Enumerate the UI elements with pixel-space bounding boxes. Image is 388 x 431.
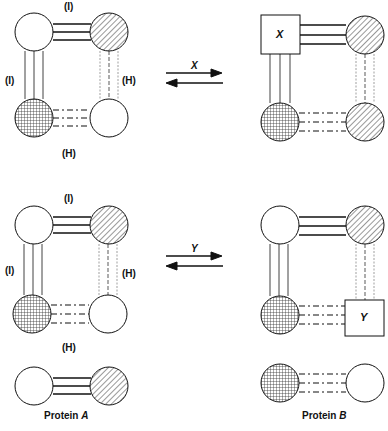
bond-label-left: (I) — [5, 265, 14, 276]
bond-label-left: (I) — [5, 75, 14, 86]
protein-diagram: (I) (I) (H) (H) (I) (I) (H) (H) X Y X Y … — [0, 0, 388, 431]
bottom-left-complex — [13, 206, 128, 333]
caption-protein-a: Protein A — [44, 410, 88, 421]
caption-protein-b: Protein B — [302, 410, 346, 421]
caption-prefix: Protein — [44, 410, 81, 421]
caption-letter: A — [81, 410, 88, 421]
protein-b — [261, 364, 384, 402]
bond-label-right: (H) — [122, 75, 136, 86]
top-left-complex — [15, 13, 128, 137]
equilibrium-arrows-x — [166, 69, 223, 87]
bond-label-top: (I) — [64, 193, 73, 204]
caption-letter: B — [339, 410, 346, 421]
bond-label-top: (I) — [64, 1, 73, 12]
protein-a — [15, 367, 128, 405]
bond-label-right: (H) — [122, 268, 136, 279]
arrow-label-x: X — [191, 60, 198, 71]
bond-label-bottom: (H) — [62, 148, 76, 159]
box-label-y: Y — [360, 311, 367, 323]
box-label-x: X — [276, 28, 283, 40]
equilibrium-arrows-y — [166, 252, 223, 270]
bond-label-bottom: (H) — [62, 342, 76, 353]
arrow-label-y: Y — [191, 243, 198, 254]
caption-prefix: Protein — [302, 410, 339, 421]
